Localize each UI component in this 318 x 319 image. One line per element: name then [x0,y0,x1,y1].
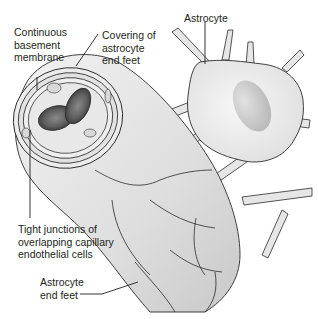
blood-brain-barrier-diagram: Continuous basement membrane Covering of… [0,0,318,319]
label-tight-junctions: Tight junctions of overlapping capillary… [18,223,114,261]
label-astrocyte-end-feet: Astrocyte end feet [40,276,84,301]
label-astrocyte-covering: Covering of astrocyte end feet [102,29,156,67]
label-astrocyte: Astrocyte [184,12,228,25]
label-basement-membrane: Continuous basement membrane [14,26,67,64]
